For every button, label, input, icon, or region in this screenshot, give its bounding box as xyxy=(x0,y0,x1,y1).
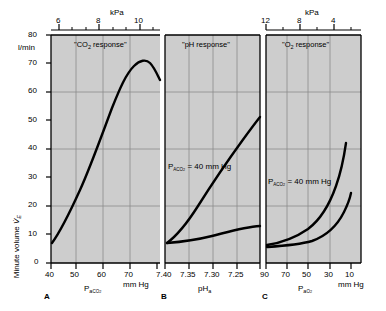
panel-a-x-tick-60: 60 xyxy=(97,271,106,279)
panel-a-plot xyxy=(46,24,160,269)
panel-b-letter: B xyxy=(161,293,167,301)
panel-c-annotation-rest: = 40 mm Hg xyxy=(287,177,331,186)
panel-b-title-suffix: response" xyxy=(194,40,230,49)
panel-c-annotation: PACO2 = 40 mm Hg xyxy=(268,178,331,186)
panel-b-x-tick-740: 7.40 xyxy=(156,271,172,279)
panel-b-annotation: PACO2 = 40 mm Hg xyxy=(168,163,231,171)
panel-a-kpa-unit: kPa xyxy=(110,9,124,17)
panel-c-title-main: O xyxy=(285,40,291,49)
panel-a-title: "CO2 response" xyxy=(74,40,127,49)
panel-a-x-unit: mm Hg xyxy=(123,281,149,289)
panel-b-x-title-main: pH xyxy=(198,284,208,293)
panel-c-title: "O2 response" xyxy=(282,40,329,49)
panel-a-kpa-tick-10: 10 xyxy=(134,17,143,25)
panel-a-letter: A xyxy=(44,293,50,301)
panel-b-plot xyxy=(165,35,260,269)
panel-b-title-main: pH xyxy=(185,40,195,49)
panel-a-title-main: CO xyxy=(77,40,88,49)
panel-c-x-tick-70: 70 xyxy=(281,271,290,279)
panel-c-x-title: PaO2 xyxy=(298,285,312,293)
panel-a-x-tick-70: 70 xyxy=(124,271,133,279)
panel-c-kpa-tick-4: 4 xyxy=(331,17,335,25)
panel-a-x-title: PaCO2 xyxy=(84,285,101,293)
panel-c-title-sub: 2 xyxy=(291,44,294,50)
panel-b-x-tick-735: 7.35 xyxy=(180,271,196,279)
panel-b-title: "pH response" xyxy=(182,40,230,49)
panel-c-x-unit: mm Hg xyxy=(338,281,364,289)
panel-b-x-tick-725: 7.25 xyxy=(228,271,244,279)
panel-a-x-tick-50: 50 xyxy=(70,271,79,279)
panel-c-kpa-tick-12: 12 xyxy=(261,17,270,25)
respiratory-response-figure: Minute volume V̇E l/min 80 70 60 50 40 3… xyxy=(0,0,386,311)
panel-a-title-sub: 2 xyxy=(88,44,91,50)
panel-c-x-tick-50: 50 xyxy=(302,271,311,279)
panel-c-plot xyxy=(266,24,361,269)
panel-a-kpa-tick-8: 8 xyxy=(96,17,100,25)
panel-b-x-tick-730: 7.30 xyxy=(204,271,220,279)
panel-c-title-suffix: response" xyxy=(294,40,330,49)
panel-b-annotation-rest: = 40 mm Hg xyxy=(187,162,231,171)
panel-a-x-tick-40: 40 xyxy=(45,271,54,279)
panel-c-x-tick-90: 90 xyxy=(260,271,269,279)
panel-b-x-title: pHa xyxy=(198,285,211,293)
panel-a-kpa-tick-6: 6 xyxy=(56,17,60,25)
panel-b-x-title-sub: a xyxy=(208,288,211,294)
panel-a-title-suffix: response" xyxy=(91,40,127,49)
panel-c-x-tick-10: 10 xyxy=(345,271,354,279)
panel-c-x-tick-30: 30 xyxy=(324,271,333,279)
panel-c-kpa-unit: kPa xyxy=(305,9,319,17)
panel-c-kpa-tick-8: 8 xyxy=(297,17,301,25)
panel-c-letter: C xyxy=(262,293,268,301)
